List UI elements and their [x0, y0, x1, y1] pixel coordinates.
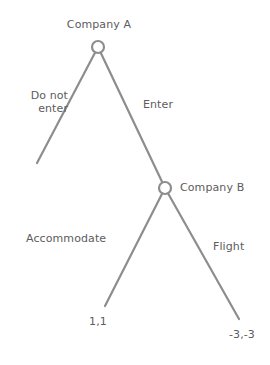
node-company-b — [159, 182, 171, 194]
edge-enter — [98, 47, 165, 188]
edge-label-accommodate: Accommodate — [26, 232, 130, 245]
node-label-company-b: Company B — [180, 181, 268, 194]
edge-label-flight: Flight — [213, 240, 265, 253]
edge-label-enter: Enter — [143, 98, 203, 111]
game-tree-diagram: Company A Company B Do not enter Enter A… — [0, 0, 270, 365]
payoff-flight: -3,-3 — [218, 328, 266, 341]
node-label-company-a: Company A — [55, 18, 143, 31]
edge-accommodate — [105, 188, 165, 306]
edge-label-do-not-enter-line-1: Do not — [31, 89, 68, 102]
payoff-accommodate: 1,1 — [77, 315, 119, 328]
edge-flight — [165, 188, 239, 319]
node-company-a — [92, 41, 104, 53]
edge-label-do-not-enter-line-2: enter — [38, 102, 68, 115]
edge-label-do-not-enter: Do not enter — [2, 89, 68, 115]
